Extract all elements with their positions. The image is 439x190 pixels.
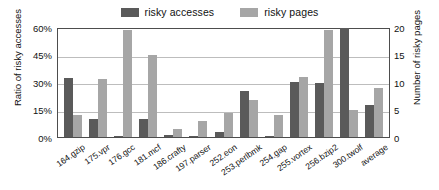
legend-label-risky-accesses: risky accesses (145, 6, 215, 18)
legend-label-risky-pages: risky pages (264, 6, 318, 18)
bar-risky-accesses (315, 83, 324, 137)
y-axis-left-tick-4: 60% (18, 23, 52, 34)
bar-group (110, 29, 135, 137)
bar-group (312, 29, 337, 137)
chart-legend: risky accesses risky pages (0, 2, 439, 22)
y-axis-left-tick-1: 15% (18, 105, 52, 116)
legend-swatch-risky-pages (240, 8, 258, 17)
bar-group (261, 29, 286, 137)
bar-risky-accesses (64, 78, 73, 137)
y-axis-left-tick-0: 0% (18, 133, 52, 144)
bar-risky-pages (73, 115, 82, 137)
legend-swatch-risky-accesses (121, 8, 139, 17)
y-axis-right-tick-3: 15 (394, 50, 424, 61)
bar-risky-pages (324, 30, 333, 137)
bar-group (60, 29, 85, 137)
legend-entry-risky-accesses: risky accesses (121, 6, 215, 18)
x-axis-tick-labels: 164.gzip175.vpr176.gcc181.mcf186.crafty1… (57, 139, 390, 189)
bar-group (211, 29, 236, 137)
bar-group (135, 29, 160, 137)
bar-risky-pages (123, 30, 132, 137)
y-axis-right-tick-4: 20 (394, 23, 424, 34)
bar-group (186, 29, 211, 137)
legend-entry-risky-pages: risky pages (240, 6, 318, 18)
risky-accesses-pages-chart: risky accesses risky pages Ratio of risk… (0, 0, 439, 190)
y-axis-right-tick-2: 10 (394, 78, 424, 89)
bar-group (362, 29, 387, 137)
y-axis-left-tick-2: 30% (18, 78, 52, 89)
bar-group (85, 29, 110, 137)
y-axis-left-tick-3: 45% (18, 50, 52, 61)
y-axis-right-tick-1: 5 (394, 105, 424, 116)
bar-group (161, 29, 186, 137)
